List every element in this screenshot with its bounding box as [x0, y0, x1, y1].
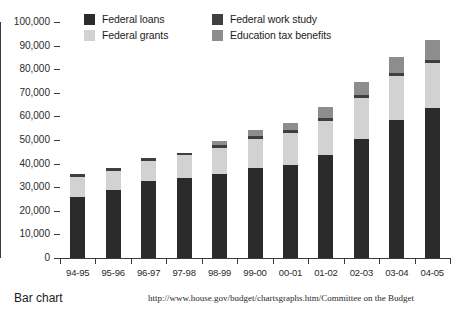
- bar-segment[interactable]: [389, 120, 404, 258]
- bar-segment[interactable]: [248, 130, 263, 136]
- bar-segment[interactable]: [389, 76, 404, 120]
- y-axis-tick-label: 100,000: [0, 17, 50, 27]
- y-axis-tick-label: 10,000: [0, 229, 50, 239]
- bar-stack[interactable]: [177, 22, 192, 258]
- x-axis-tick: [344, 258, 345, 264]
- y-axis-tick-label: 50,000: [0, 135, 50, 145]
- y-axis-tick-label: 90,000: [0, 41, 50, 51]
- bar-segment[interactable]: [283, 123, 298, 130]
- bar-segment[interactable]: [177, 153, 192, 156]
- x-axis-tick: [415, 258, 416, 264]
- x-axis-tick-label: 97-98: [166, 268, 202, 278]
- x-axis-tick: [95, 258, 96, 264]
- bar-segment[interactable]: [212, 148, 227, 174]
- x-axis-tick-label: 99-00: [237, 268, 273, 278]
- x-axis-tick: [450, 258, 451, 264]
- x-axis-tick: [131, 258, 132, 264]
- bar-segment[interactable]: [106, 171, 121, 190]
- x-axis-tick: [202, 258, 203, 264]
- bar-stack[interactable]: [354, 22, 369, 258]
- x-axis-tick-label: 04-05: [414, 268, 450, 278]
- bar-stack[interactable]: [318, 22, 333, 258]
- x-axis-tick: [308, 258, 309, 264]
- y-axis-tick-label: 40,000: [0, 159, 50, 169]
- x-axis-tick-label: 96-97: [131, 268, 167, 278]
- bar-stack[interactable]: [212, 22, 227, 258]
- bar-segment[interactable]: [389, 73, 404, 76]
- x-axis-tick-label: 01-02: [308, 268, 344, 278]
- x-axis-tick-label: 00-01: [272, 268, 308, 278]
- bar-segment[interactable]: [318, 118, 333, 121]
- bar-segment[interactable]: [70, 174, 85, 177]
- bar-stack[interactable]: [248, 22, 263, 258]
- x-axis-tick: [166, 258, 167, 264]
- x-axis-tick-label: 02-03: [343, 268, 379, 278]
- chart-type-caption: Bar chart: [14, 291, 63, 305]
- bar-stack[interactable]: [283, 22, 298, 258]
- bar-segment[interactable]: [283, 165, 298, 258]
- bar-stack[interactable]: [141, 22, 156, 258]
- bar-segment[interactable]: [283, 133, 298, 165]
- y-axis-tick-label: 30,000: [0, 182, 50, 192]
- bar-segment[interactable]: [318, 121, 333, 155]
- bar-segment[interactable]: [141, 158, 156, 161]
- bar-segment[interactable]: [318, 155, 333, 258]
- bar-segment[interactable]: [425, 63, 440, 108]
- y-axis-tick-label: 70,000: [0, 88, 50, 98]
- bar-stack[interactable]: [425, 22, 440, 258]
- bar-segment[interactable]: [425, 108, 440, 258]
- bar-segment[interactable]: [248, 168, 263, 258]
- x-axis-tick-label: 95-96: [95, 268, 131, 278]
- bar-segment[interactable]: [70, 197, 85, 258]
- bar-segment[interactable]: [212, 174, 227, 258]
- x-axis-tick-label: 94-95: [60, 268, 96, 278]
- bar-segment[interactable]: [354, 98, 369, 139]
- bar-segment[interactable]: [141, 161, 156, 181]
- x-axis-tick: [60, 258, 61, 264]
- bar-stack[interactable]: [70, 22, 85, 258]
- bar-segment[interactable]: [248, 139, 263, 169]
- bar-segment[interactable]: [425, 40, 440, 60]
- bar-segment[interactable]: [354, 139, 369, 258]
- bar-segment[interactable]: [283, 130, 298, 133]
- bar-segment[interactable]: [177, 155, 192, 177]
- bar-segment[interactable]: [354, 82, 369, 95]
- y-axis-tick-label: 0: [0, 253, 50, 263]
- x-axis-tick: [379, 258, 380, 264]
- bar-segment[interactable]: [141, 181, 156, 258]
- bar-segment[interactable]: [354, 95, 369, 98]
- bar-segment[interactable]: [318, 107, 333, 119]
- bar-segment[interactable]: [70, 177, 85, 197]
- bar-segment[interactable]: [106, 168, 121, 171]
- x-axis-tick: [273, 258, 274, 264]
- bar-segment[interactable]: [106, 190, 121, 258]
- bar-segment[interactable]: [425, 60, 440, 63]
- bar-segment[interactable]: [212, 141, 227, 146]
- x-axis-tick-label: 98-99: [202, 268, 238, 278]
- bar-stack[interactable]: [106, 22, 121, 258]
- bars-layer: [60, 22, 450, 258]
- bar-chart-figure: Federal loans Federal work study Federal…: [0, 0, 456, 317]
- bar-segment[interactable]: [212, 145, 227, 148]
- y-axis-tick-label: 20,000: [0, 206, 50, 216]
- x-axis-tick: [237, 258, 238, 264]
- bar-segment[interactable]: [177, 178, 192, 258]
- x-axis-tick-label: 03-04: [379, 268, 415, 278]
- y-axis-tick-label: 60,000: [0, 111, 50, 121]
- bar-stack[interactable]: [389, 22, 404, 258]
- x-axis-line: [60, 258, 450, 259]
- bar-segment[interactable]: [389, 57, 404, 74]
- bar-segment[interactable]: [248, 136, 263, 139]
- source-url-caption: http://www.house.gov/budget/chartsgraphs…: [148, 293, 414, 303]
- y-axis-tick-label: 80,000: [0, 64, 50, 74]
